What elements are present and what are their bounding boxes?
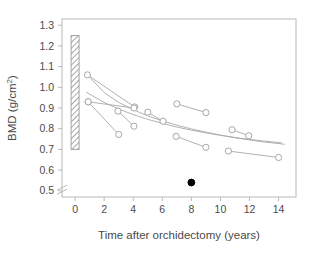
open-circle-marker xyxy=(225,148,231,154)
data-point-markers xyxy=(84,72,281,161)
open-circle-marker xyxy=(131,105,137,111)
open-circle-marker xyxy=(116,131,122,137)
y-axis-title-text: BMD (g/cm2) xyxy=(5,75,19,141)
x-tick-label: 4 xyxy=(130,203,136,215)
open-circle-marker xyxy=(131,123,137,129)
pair-connector xyxy=(88,102,134,108)
y-tick-label: 1.1 xyxy=(39,60,54,72)
y-tick-label: 0.5 xyxy=(39,184,54,196)
paired-connector-lines xyxy=(87,75,278,158)
open-circle-marker xyxy=(160,118,166,124)
filled-circle-marker xyxy=(188,179,195,186)
x-tick-labels: 02468101214 xyxy=(72,203,284,215)
pair-connector xyxy=(176,136,206,147)
pair-connector xyxy=(177,104,206,113)
open-circle-marker xyxy=(115,108,121,114)
open-circle-marker xyxy=(145,109,151,115)
y-tick-label: 0.7 xyxy=(39,143,54,155)
open-circle-marker xyxy=(229,127,235,133)
y-tick-label: 1.0 xyxy=(39,81,54,93)
open-circle-marker xyxy=(173,133,179,139)
open-circle-marker xyxy=(203,144,209,150)
y-tick-labels: 0.50.60.70.80.91.01.11.21.3 xyxy=(39,19,54,197)
x-tick-label: 14 xyxy=(273,203,285,215)
open-circle-marker xyxy=(203,109,209,115)
plot-border xyxy=(62,19,296,197)
x-axis-ticks xyxy=(75,197,278,201)
normal-range-hatched-bar xyxy=(71,36,79,150)
x-tick-label: 6 xyxy=(159,203,165,215)
pair-connector xyxy=(87,75,134,107)
chart-canvas: 0.50.60.70.80.91.01.11.21.3 02468101214 … xyxy=(0,0,311,253)
open-circle-marker xyxy=(84,72,90,78)
x-tick-label: 12 xyxy=(244,203,256,215)
pair-connector xyxy=(228,151,278,157)
plot-frame xyxy=(62,19,296,197)
y-axis-title: BMD (g/cm2) xyxy=(5,75,19,141)
normal-range-bar xyxy=(71,36,79,150)
x-axis-title: Time after orchidectomy (years) xyxy=(98,229,260,241)
y-tick-label: 1.3 xyxy=(39,19,54,31)
open-circle-marker xyxy=(246,133,252,139)
y-tick-label: 0.8 xyxy=(39,122,54,134)
x-tick-label: 2 xyxy=(101,203,107,215)
open-circle-marker xyxy=(85,99,91,105)
x-tick-label: 10 xyxy=(215,203,227,215)
bmd-scatter-figure: 0.50.60.70.80.91.01.11.21.3 02468101214 … xyxy=(0,0,311,253)
x-tick-label: 0 xyxy=(72,203,78,215)
y-tick-label: 1.2 xyxy=(39,40,54,52)
open-circle-marker xyxy=(174,101,180,107)
y-tick-label: 0.9 xyxy=(39,102,54,114)
filled-data-point xyxy=(188,179,195,186)
x-axis-title-text: Time after orchidectomy (years) xyxy=(98,229,260,241)
open-circle-marker xyxy=(275,154,281,160)
x-tick-label: 8 xyxy=(188,203,194,215)
y-axis-ticks xyxy=(58,25,62,191)
y-tick-label: 0.6 xyxy=(39,164,54,176)
